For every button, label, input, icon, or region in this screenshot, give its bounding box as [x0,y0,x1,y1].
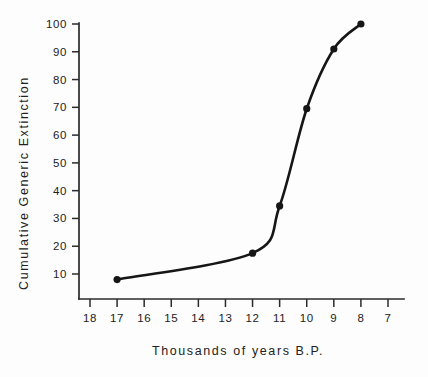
data-point [357,20,364,27]
y-tick-label: 60 [53,129,67,141]
x-tick-label: 17 [110,312,124,324]
data-point [330,45,337,52]
y-tick-label: 80 [53,74,67,86]
x-tick-label: 12 [246,312,260,324]
y-tick-label: 40 [53,185,67,197]
x-tick-label: 11 [273,312,286,324]
data-point [113,276,120,283]
y-tick-label: 70 [53,101,67,113]
y-tick-label: 30 [53,212,67,224]
x-tick-label: 16 [137,312,151,324]
y-tick-label: 20 [53,240,67,252]
x-axis-title: Thousands of years B.P. [152,344,324,358]
y-tick-label: 90 [53,46,67,58]
data-point [276,202,283,209]
x-tick-label: 7 [385,312,392,324]
x-tick-label: 9 [330,312,337,324]
x-tick-label: 15 [164,312,178,324]
figure-container: 102030405060708090100 181716151413121110… [0,0,428,377]
x-tick-label: 13 [218,312,232,324]
line-chart: 102030405060708090100 181716151413121110… [0,0,428,377]
x-tick-label: 10 [300,312,314,324]
x-tick-label: 14 [191,312,205,324]
x-tick-label: 8 [357,312,364,324]
y-tick-label: 50 [53,157,67,169]
data-point [303,105,310,112]
y-tick-label: 100 [46,18,67,30]
x-tick-label: 18 [83,312,97,324]
data-point [249,250,256,257]
y-tick-label: 10 [53,268,67,280]
y-axis-title: Cumulative Generic Extinction [17,76,31,290]
